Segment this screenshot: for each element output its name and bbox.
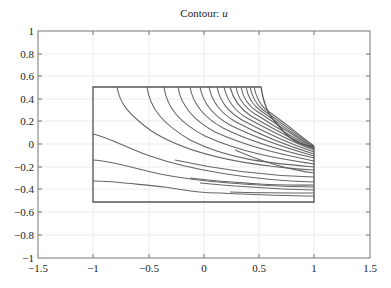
y-tick-label: 1	[29, 25, 35, 37]
x-tick-label: −1	[87, 262, 99, 274]
y-tick-label: 0.6	[20, 70, 34, 82]
grid	[38, 31, 370, 258]
y-tick-label: −0.8	[14, 229, 34, 241]
x-tick-label: 1	[311, 262, 317, 274]
y-tick-label: 0.2	[20, 115, 34, 127]
y-tick-label: 0	[29, 138, 35, 150]
y-tick-label: −1	[22, 252, 34, 264]
y-tick-label: −0.2	[14, 161, 34, 173]
y-tick-label: −0.4	[14, 183, 34, 195]
contour-chart: Contour: u	[0, 0, 391, 288]
y-tick-label: 0.8	[20, 48, 34, 60]
y-tick-label: 0.4	[20, 93, 34, 105]
x-tick-labels: −1.5 −1 −0.5 0 0.5 1 1.5	[28, 262, 377, 274]
y-tick-label: −0.6	[14, 206, 34, 218]
x-tick-label: 0	[201, 262, 207, 274]
chart-title: Contour: u	[180, 7, 228, 19]
x-tick-label: 0.5	[252, 262, 266, 274]
y-tick-labels: 1 0.8 0.6 0.4 0.2 0 −0.2 −0.4 −0.6 −0.8 …	[14, 25, 34, 264]
x-tick-label: −0.5	[139, 262, 159, 274]
x-tick-label: 1.5	[363, 262, 377, 274]
